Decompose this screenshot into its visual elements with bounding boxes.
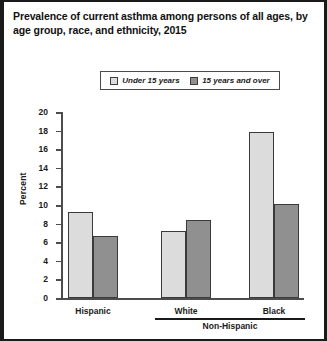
y-axis-tick-label: 4 — [43, 256, 48, 266]
x-axis-label-black: Black — [263, 306, 286, 316]
x-axis-label-hispanic: Hispanic — [75, 306, 110, 316]
y-axis-tick-label: 18 — [39, 126, 48, 136]
y-axis-tick-label: 2 — [43, 274, 48, 284]
bar-hispanic-under-15 — [68, 212, 93, 298]
y-axis-tick: 20 — [56, 112, 61, 114]
y-axis-tick: 6 — [56, 242, 61, 244]
dark-gray-swatch-icon — [190, 77, 198, 85]
y-axis-tick: 0 — [56, 298, 61, 300]
legend-entry-15-and-over: 15 years and over — [190, 76, 270, 85]
y-axis-tick-label: 12 — [39, 181, 48, 191]
bar-black-under-15 — [249, 132, 274, 298]
chart-figure: Prevalence of current asthma among perso… — [0, 0, 327, 341]
bar-hispanic-15-and-over — [93, 236, 118, 298]
y-axis-tick-label: 14 — [39, 163, 48, 173]
non-hispanic-bracket-line — [155, 318, 305, 320]
bar-white-under-15 — [161, 231, 186, 298]
legend-label-under-15: Under 15 years — [122, 76, 179, 85]
y-axis-tick: 16 — [56, 149, 61, 151]
y-axis-tick: 14 — [56, 168, 61, 170]
bar-white-15-and-over — [186, 220, 211, 298]
y-axis-tick: 8 — [56, 224, 61, 226]
y-axis-tick-label: 8 — [43, 219, 48, 229]
y-axis-tick: 10 — [56, 205, 61, 207]
y-axis-tick: 4 — [56, 261, 61, 263]
x-axis-line — [61, 298, 304, 300]
chart-legend: Under 15 years 15 years and over — [100, 71, 280, 90]
plot-area: 02468101214161820 — [61, 112, 304, 298]
y-axis-tick-label: 0 — [43, 293, 48, 303]
y-axis-line — [61, 112, 63, 298]
y-axis-tick-label: 16 — [39, 144, 48, 154]
x-axis-label-white: White — [174, 306, 197, 316]
bar-black-15-and-over — [274, 204, 299, 298]
y-axis-tick-label: 20 — [39, 107, 48, 117]
y-axis-tick: 18 — [56, 131, 61, 133]
legend-entry-under-15: Under 15 years — [110, 76, 179, 85]
legend-label-15-and-over: 15 years and over — [202, 76, 270, 85]
y-axis-title: Percent — [18, 172, 28, 205]
y-axis-tick-label: 10 — [39, 200, 48, 210]
y-axis-tick-label: 6 — [43, 237, 48, 247]
non-hispanic-bracket-label: Non-Hispanic — [203, 321, 258, 331]
chart-title: Prevalence of current asthma among perso… — [13, 9, 313, 37]
y-axis-tick: 12 — [56, 186, 61, 188]
light-gray-swatch-icon — [110, 77, 118, 85]
y-axis-tick: 2 — [56, 279, 61, 281]
